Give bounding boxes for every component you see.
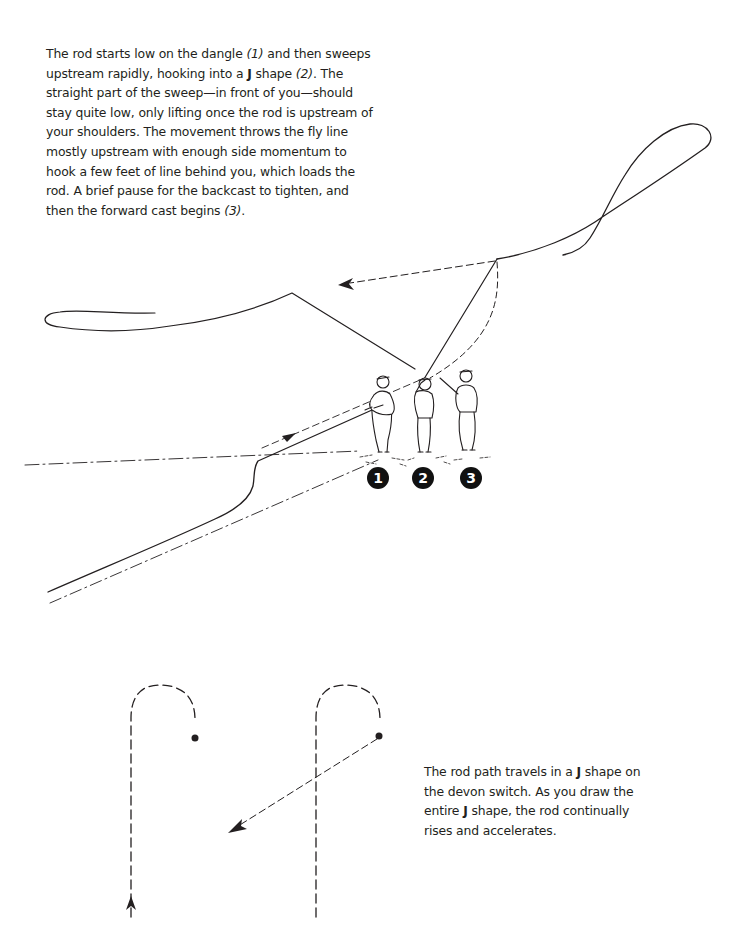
rod-line-up	[424, 259, 497, 379]
step-badge-2: 2	[412, 467, 434, 489]
backcast-loop-line	[497, 124, 711, 259]
forward-cast-dashed	[350, 261, 495, 283]
forward-cast-arrowhead	[338, 278, 354, 290]
fly-line-lower	[48, 410, 372, 592]
forward-arrowhead	[228, 819, 247, 833]
sweep-arrowhead	[282, 433, 296, 442]
j-shape-diagram-right	[228, 685, 383, 917]
caption-segment: The rod path travels in a	[424, 764, 577, 779]
fly-line-upper	[45, 293, 415, 369]
bottom-caption: The rod path travels in a J shape on the…	[424, 762, 659, 840]
rod-sweep-dashed	[430, 262, 498, 378]
j-shape-diagram-left	[126, 685, 199, 917]
dangle-dashdot	[25, 451, 360, 465]
step-badge-1: 1	[367, 467, 389, 489]
angler-figure-3	[440, 370, 477, 450]
lower-dashed-line	[50, 460, 378, 603]
step-badge-3: 3	[460, 467, 482, 489]
angler-figure-1	[365, 376, 394, 452]
angler-figure-2	[414, 378, 433, 452]
water-ripples	[360, 455, 490, 466]
